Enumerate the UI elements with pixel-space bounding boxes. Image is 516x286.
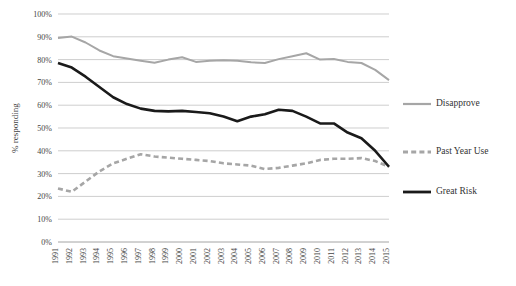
xtick-label-2001: 2001 [189, 248, 198, 264]
xtick-label-2000: 2000 [175, 248, 184, 264]
ytick-label-100: 100% [33, 10, 52, 19]
chart-legend: DisapprovePast Year UseGreat Risk [403, 98, 489, 196]
legend-label-disapprove: Disapprove [436, 98, 480, 108]
ytick-labels-group: 0%10%20%30%40%50%60%70%80%90%100% [33, 10, 52, 247]
y-axis-label: % responding [10, 103, 20, 153]
ytick-label-40: 40% [37, 147, 52, 156]
xtick-label-2005: 2005 [244, 248, 253, 264]
ytick-label-30: 30% [37, 170, 52, 179]
xtick-label-2007: 2007 [272, 248, 281, 264]
series-line-past-year-use [58, 154, 389, 192]
xtick-label-1998: 1998 [148, 248, 157, 264]
xtick-label-2014: 2014 [368, 248, 377, 264]
xtick-label-2011: 2011 [327, 248, 336, 264]
xtick-label-2002: 2002 [203, 248, 212, 264]
xtick-label-2012: 2012 [341, 248, 350, 264]
xtick-label-1999: 1999 [161, 248, 170, 264]
legend-label-great-risk: Great Risk [436, 186, 477, 196]
legend-label-past-year-use: Past Year Use [436, 146, 489, 156]
y-axis-title: % responding [10, 103, 20, 153]
xtick-label-1997: 1997 [134, 248, 143, 264]
ytick-label-90: 90% [37, 33, 52, 42]
ytick-label-50: 50% [37, 124, 52, 133]
xtick-labels-group: 1991199219931994199519961997199819992000… [51, 248, 391, 264]
ytick-label-70: 70% [37, 78, 52, 87]
xtick-label-1991: 1991 [51, 248, 60, 264]
xtick-label-1993: 1993 [79, 248, 88, 264]
series-line-disapprove [58, 37, 389, 81]
xtick-label-1994: 1994 [92, 248, 101, 264]
ytick-label-0: 0% [41, 238, 52, 247]
xtick-label-1992: 1992 [65, 248, 74, 264]
xtick-label-1996: 1996 [120, 248, 129, 264]
xtick-label-2015: 2015 [382, 248, 391, 264]
xtick-label-2010: 2010 [313, 248, 322, 264]
xtick-label-2008: 2008 [285, 248, 294, 264]
chart-container: 0%10%20%30%40%50%60%70%80%90%100% 199119… [0, 0, 516, 286]
xtick-label-2004: 2004 [230, 248, 239, 264]
line-chart: 0%10%20%30%40%50%60%70%80%90%100% 199119… [0, 0, 516, 286]
ytick-label-20: 20% [37, 192, 52, 201]
ytick-label-60: 60% [37, 101, 52, 110]
xtick-label-2009: 2009 [299, 248, 308, 264]
series-line-great-risk [58, 63, 389, 167]
xtick-label-1995: 1995 [106, 248, 115, 264]
ytick-label-80: 80% [37, 56, 52, 65]
xtick-label-2006: 2006 [258, 248, 267, 264]
ytick-label-10: 10% [37, 215, 52, 224]
xtick-label-2003: 2003 [217, 248, 226, 264]
xtick-label-2013: 2013 [354, 248, 363, 264]
